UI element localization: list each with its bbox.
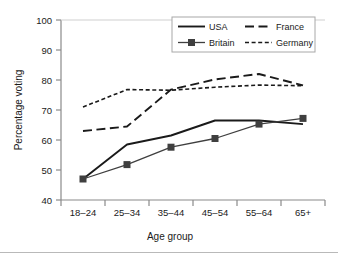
y-tick-label-90: 90	[41, 45, 52, 56]
chart-legend: USA France Britain Germany	[172, 17, 315, 52]
y-tick-label-80: 80	[41, 75, 52, 86]
y-axis-title: Percentage voting	[13, 70, 24, 151]
y-tick-label-40: 40	[41, 195, 52, 206]
x-axis-title: Age group	[147, 231, 194, 242]
data-point-britain-18-24	[80, 176, 87, 183]
legend-label-france: France	[276, 22, 304, 32]
chart-figure: 100 90 80 70 60 50 40 18–24 25–34 35–44 …	[0, 0, 338, 253]
x-axis-ticks	[61, 200, 325, 206]
data-point-britain-65plus	[300, 115, 307, 122]
y-tick-label-50: 50	[41, 165, 52, 176]
y-tick-label-100: 100	[36, 15, 52, 26]
data-point-britain-45-54	[212, 135, 219, 142]
x-tick-label-45-54: 45–54	[202, 207, 228, 218]
series-line-germany	[83, 85, 303, 107]
y-tick-label-70: 70	[41, 105, 52, 116]
legend-label-britain: Britain	[209, 38, 235, 48]
y-axis-tick-labels: 100 90 80 70 60 50 40	[36, 15, 52, 206]
legend-label-germany: Germany	[276, 38, 314, 48]
series-line-usa	[83, 121, 303, 180]
x-tick-label-18-24: 18–24	[70, 207, 96, 218]
x-tick-label-35-44: 35–44	[158, 207, 184, 218]
data-point-britain-35-44	[168, 144, 175, 151]
voting-by-age-line-chart: 100 90 80 70 60 50 40 18–24 25–34 35–44 …	[0, 0, 338, 253]
x-tick-label-25-34: 25–34	[114, 207, 140, 218]
x-axis-tick-labels: 18–24 25–34 35–44 45–54 55–64 65+	[70, 207, 312, 218]
y-axis-ticks	[56, 20, 61, 200]
x-tick-label-55-64: 55–64	[246, 207, 272, 218]
x-tick-label-65plus: 65+	[295, 207, 312, 218]
data-point-britain-55-64	[256, 121, 263, 128]
y-tick-label-60: 60	[41, 135, 52, 146]
legend-marker-britain	[188, 39, 195, 46]
series-markers-britain	[80, 115, 307, 183]
legend-label-usa: USA	[209, 22, 228, 32]
data-point-britain-25-34	[124, 161, 131, 168]
